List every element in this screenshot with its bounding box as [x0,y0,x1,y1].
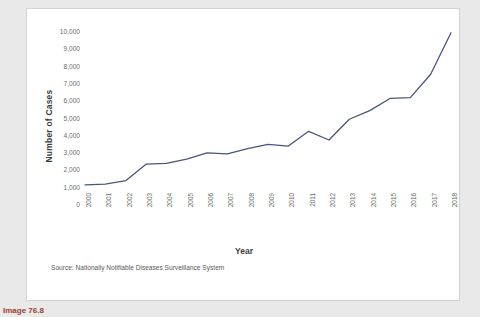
figure-panel: Number of Cases Year 01,0002,0003,0004,0… [26,8,460,301]
source-note: Source: Nationally Notifiable Diseases S… [51,264,224,271]
line-chart: Number of Cases Year 01,0002,0003,0004,0… [27,9,461,302]
figure-caption: Image 76.8 [3,306,44,315]
plot-canvas [27,9,461,302]
data-series-line [85,33,451,185]
